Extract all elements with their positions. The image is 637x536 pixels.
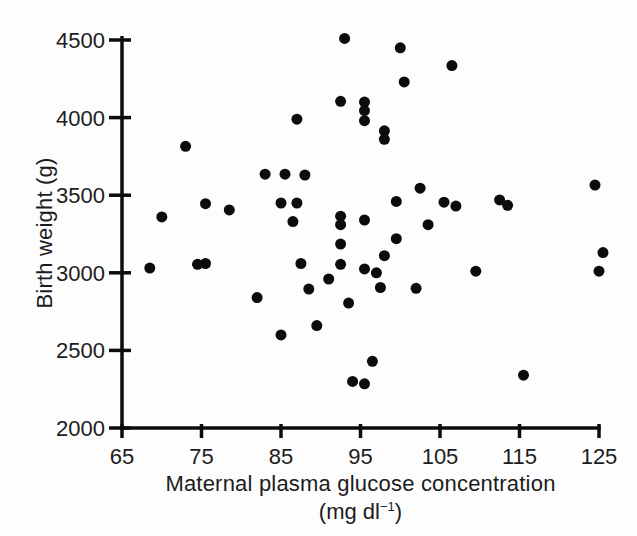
data-point xyxy=(590,180,601,191)
data-point xyxy=(295,258,306,269)
data-point xyxy=(359,105,370,116)
data-point xyxy=(379,250,390,261)
data-point xyxy=(303,284,314,295)
data-point xyxy=(339,33,350,44)
data-point xyxy=(371,267,382,278)
x-tick-label: 105 xyxy=(422,444,459,469)
data-point xyxy=(192,259,203,270)
x-tick-label: 65 xyxy=(110,444,134,469)
x-tick-label: 95 xyxy=(348,444,372,469)
data-point xyxy=(367,356,378,367)
data-point xyxy=(359,215,370,226)
data-point xyxy=(280,169,291,180)
x-axis-unit-exponent: −1 xyxy=(380,499,395,514)
data-point xyxy=(375,282,386,293)
data-point xyxy=(359,378,370,389)
data-point xyxy=(415,183,426,194)
data-point xyxy=(423,219,434,230)
data-point xyxy=(291,198,302,209)
data-point xyxy=(156,211,167,222)
x-axis-unit-suffix: ) xyxy=(395,499,402,524)
data-point xyxy=(343,298,354,309)
data-point xyxy=(598,247,609,258)
y-axis-title: Birth weight (g) xyxy=(32,157,58,308)
data-point xyxy=(391,233,402,244)
data-point xyxy=(144,263,155,274)
x-axis-unit: (mg dl−1) xyxy=(122,499,599,525)
data-point xyxy=(518,370,529,381)
x-axis-title: Maternal plasma glucose concentration xyxy=(122,471,599,497)
data-point xyxy=(323,274,334,285)
y-tick-label: 2000 xyxy=(56,416,105,441)
y-tick-label: 2500 xyxy=(56,338,105,363)
data-point xyxy=(200,198,211,209)
data-point xyxy=(335,259,346,270)
data-point xyxy=(180,141,191,152)
data-point xyxy=(260,169,271,180)
data-point xyxy=(450,201,461,212)
data-point xyxy=(594,266,605,277)
data-point xyxy=(359,115,370,126)
x-tick-label: 85 xyxy=(269,444,293,469)
data-point xyxy=(446,60,457,71)
data-point xyxy=(335,219,346,230)
plot-canvas: 2000250030003500400045006575859510511512… xyxy=(0,0,637,536)
data-point xyxy=(391,196,402,207)
data-point xyxy=(439,197,450,208)
data-point xyxy=(291,114,302,125)
data-point xyxy=(287,216,298,227)
y-tick-label: 3000 xyxy=(56,261,105,286)
data-point xyxy=(224,204,235,215)
y-tick-label: 3500 xyxy=(56,183,105,208)
data-point xyxy=(411,283,422,294)
data-point xyxy=(359,263,370,274)
data-point xyxy=(276,329,287,340)
y-tick-label: 4500 xyxy=(56,28,105,53)
x-axis-unit-prefix: (mg dl xyxy=(319,499,380,524)
data-point xyxy=(347,376,358,387)
x-tick-label: 75 xyxy=(189,444,213,469)
data-point xyxy=(379,134,390,145)
data-point xyxy=(252,292,263,303)
data-point xyxy=(399,76,410,87)
data-point xyxy=(311,320,322,331)
x-tick-label: 125 xyxy=(581,444,618,469)
data-point xyxy=(395,42,406,53)
data-point xyxy=(299,170,310,181)
data-point xyxy=(470,266,481,277)
data-point xyxy=(335,96,346,107)
scatter-figure: 2000250030003500400045006575859510511512… xyxy=(0,0,637,536)
x-tick-label: 115 xyxy=(502,444,537,469)
y-tick-label: 4000 xyxy=(56,106,105,131)
data-point xyxy=(335,239,346,250)
data-point xyxy=(502,200,513,211)
data-point xyxy=(276,198,287,209)
